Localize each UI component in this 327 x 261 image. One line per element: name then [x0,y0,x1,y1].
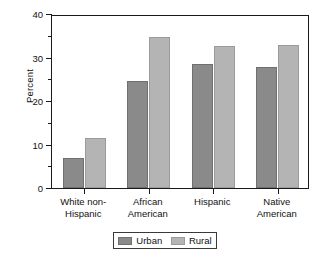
y-tick-label: 0 [38,183,43,194]
bar-rural [149,37,170,188]
legend-label: Urban [136,235,162,246]
x-category-label: Hispanic [180,196,245,208]
legend-item-urban[interactable]: Urban [118,235,162,246]
legend-swatch-icon [171,237,185,245]
x-tick-mark [84,188,85,194]
x-category-label-line: White non- [51,196,116,208]
y-tick-label: 30 [32,52,43,63]
plot-area: 010203040 [51,15,309,189]
y-tick-mark [46,188,52,189]
bar-urban [127,81,148,188]
x-category-label: NativeAmerican [245,196,310,219]
bar-urban [256,67,277,188]
bar-group [63,16,106,188]
bar-urban [192,64,213,188]
bar-urban [63,158,84,188]
x-category-label: White non-Hispanic [51,196,116,219]
y-tick-mark [46,14,52,15]
bar-series-container [52,16,308,188]
bar-group [127,16,170,188]
bar-rural [85,138,106,188]
y-tick-label: 20 [32,96,43,107]
y-tick-label: 10 [32,139,43,150]
y-tick-label: 40 [32,9,43,20]
x-tick-mark [149,188,150,194]
x-category-label-line: Hispanic [180,196,245,208]
legend: UrbanRural [113,232,217,249]
x-category-label-line: Native [245,196,310,208]
bar-group [256,16,299,188]
x-tick-mark [213,188,214,194]
x-category-label-line: American [116,208,181,220]
x-category-label-line: Hispanic [51,208,116,220]
chart-figure: Percent 010203040 White non-HispanicAfri… [0,0,327,261]
legend-swatch-icon [118,237,132,245]
x-category-label-line: American [245,208,310,220]
x-category-label-line: African [116,196,181,208]
bar-rural [214,46,235,188]
bar-rural [278,45,299,188]
x-category-label: AfricanAmerican [116,196,181,219]
y-axis-title: Percent [24,56,40,116]
bar-group [192,16,235,188]
x-tick-mark [278,188,279,194]
legend-item-rural[interactable]: Rural [171,235,212,246]
legend-label: Rural [189,235,212,246]
